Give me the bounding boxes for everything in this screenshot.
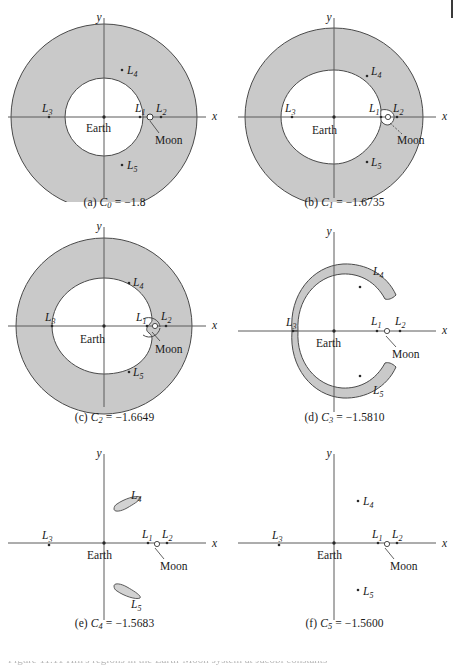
lagrange-point-l2-dot xyxy=(399,330,402,333)
hill-region-shade xyxy=(0,6,229,202)
panel-b-caption-prefix: (b) xyxy=(304,196,318,208)
earth-marker xyxy=(332,115,335,118)
lagrange-point-l3-dot xyxy=(278,544,281,547)
hill-region-l5-sliver xyxy=(114,584,140,599)
moon-marker xyxy=(152,323,157,328)
figure-sheet: y x Earth Moon L1 L2 L3 L4 L5 (a) C0 = −… xyxy=(0,0,459,671)
panel-e-caption-symbol: C xyxy=(91,617,99,629)
earth-marker xyxy=(102,324,105,327)
panel-c-plot: y x Earth Moon L1 L2 L3 L4 L5 xyxy=(0,221,229,417)
panel-f: y x Earth Moon L1 L2 L3 L4 L5 (f) C5 = −… xyxy=(230,440,459,640)
y-axis-label: y xyxy=(325,447,332,460)
moon-label: Moon xyxy=(390,560,418,572)
panel-c-svg: y x Earth Moon L1 L2 L3 L4 L5 xyxy=(0,221,229,417)
panel-f-caption-symbol: C xyxy=(320,617,328,629)
lagrange-point-l5-dot xyxy=(128,371,131,374)
lagrange-point-l2-dot xyxy=(396,116,399,119)
earth-marker xyxy=(332,329,335,332)
lagrange-label-l5: L5 xyxy=(130,598,141,613)
panel-a-caption-value: −1.8 xyxy=(124,196,145,208)
panel-a-caption-subscript: 0 xyxy=(107,201,111,210)
panel-e-caption-equals: = xyxy=(106,617,113,629)
panel-c-caption-prefix: (c) xyxy=(75,411,88,423)
panel-f-caption-prefix: (f) xyxy=(305,617,317,629)
panel-b-caption-subscript: 1 xyxy=(329,201,333,210)
y-axis-label: y xyxy=(325,225,332,238)
x-axis-label: x xyxy=(211,537,218,549)
panel-b: y x Earth Moon L1 L2 L3 L4 L5 (b) C1 = −… xyxy=(230,6,459,221)
panel-d-plot: y x Earth Moon L1 L2 L3 L4 L5 xyxy=(230,221,459,417)
panel-a-plot: y x Earth Moon L1 L2 L3 L4 L5 xyxy=(0,6,229,202)
panel-f-caption: (f) C5 = −1.5600 xyxy=(230,617,459,631)
truncated-footer-caption: Figure 11.11 Hill's regions in the Earth… xyxy=(8,661,344,668)
panel-c-caption-symbol: C xyxy=(91,411,99,423)
hill-region-shade xyxy=(0,221,229,417)
moon-label: Moon xyxy=(160,560,188,572)
lagrange-label-l2: L2 xyxy=(161,528,172,543)
panel-d: y x Earth Moon L1 L2 L3 L4 L5 (d) C3 = −… xyxy=(230,221,459,436)
panel-f-svg: y x Earth Moon L1 L2 L3 L4 L5 xyxy=(230,440,459,622)
panel-a-caption-prefix: (a) xyxy=(84,196,97,208)
lagrange-point-l4-dot xyxy=(359,286,362,289)
panel-f-caption-subscript: 5 xyxy=(328,622,332,631)
lagrange-point-l1-dot xyxy=(380,116,383,119)
panel-b-caption-value: −1.6735 xyxy=(346,196,385,208)
x-axis-label: x xyxy=(441,110,448,122)
moon-marker xyxy=(384,541,389,546)
panel-c-caption-value: −1.6649 xyxy=(115,411,154,423)
panel-e-plot: y x Earth Moon L1 L2 L3 L4 L5 xyxy=(0,440,229,622)
panel-f-caption-value: −1.5600 xyxy=(345,617,384,629)
lagrange-point-l2-dot xyxy=(165,325,168,328)
x-axis-label: x xyxy=(441,537,448,549)
y-axis-label: y xyxy=(95,11,102,24)
panel-c-caption: (c) C2 = −1.6649 xyxy=(0,411,229,425)
panel-e-caption: (e) C4 = −1.5683 xyxy=(0,617,229,631)
panel-e-caption-value: −1.5683 xyxy=(115,617,154,629)
earth-label: Earth xyxy=(312,124,337,136)
moon-marker xyxy=(147,114,153,120)
y-axis-label: y xyxy=(95,221,102,233)
panel-d-caption: (d) C3 = −1.5810 xyxy=(230,411,459,425)
lagrange-point-l5-dot xyxy=(366,161,369,164)
panel-d-caption-symbol: C xyxy=(321,411,329,423)
panel-a-caption-equals: = xyxy=(115,196,122,208)
earth-label: Earth xyxy=(87,549,112,561)
panel-d-caption-value: −1.5810 xyxy=(346,411,385,423)
panel-e-caption-prefix: (e) xyxy=(75,617,88,629)
moon-marker xyxy=(384,328,389,333)
panel-e: y x Earth Moon L1 L2 L3 L4 L5 (e) C4 = −… xyxy=(0,440,229,640)
earth-marker xyxy=(102,115,105,118)
lagrange-point-l1-dot xyxy=(376,330,379,333)
panel-d-caption-subscript: 3 xyxy=(329,416,333,425)
earth-label: Earth xyxy=(80,333,105,345)
lagrange-point-l4-dot xyxy=(357,500,360,503)
panel-b-svg: y x Earth Moon L1 L2 L3 L4 L5 xyxy=(230,6,459,202)
lagrange-label-l2: L2 xyxy=(391,528,402,543)
moon-leader-line xyxy=(155,548,164,559)
panel-c-caption-equals: = xyxy=(106,411,113,423)
panel-b-plot: y x Earth Moon L1 L2 L3 L4 L5 xyxy=(230,6,459,202)
moon-leader-line xyxy=(386,336,396,347)
lagrange-label-l1: L1 xyxy=(371,528,382,543)
earth-label: Earth xyxy=(317,549,342,561)
panel-f-caption-equals: = xyxy=(335,617,342,629)
moon-leader-line xyxy=(385,548,394,559)
lagrange-point-l5-dot xyxy=(357,589,360,592)
panel-d-caption-prefix: (d) xyxy=(304,411,318,423)
moon-label: Moon xyxy=(155,343,183,355)
lagrange-point-l3-dot xyxy=(48,544,51,547)
lagrange-point-l5-dot xyxy=(359,375,362,378)
panel-a-svg: y x Earth Moon L1 L2 L3 L4 L5 xyxy=(0,6,229,202)
lagrange-label-l4: L4 xyxy=(362,495,373,510)
lagrange-label-l5: L5 xyxy=(362,585,373,600)
x-axis-label: x xyxy=(211,319,218,331)
lagrange-label-l3: L3 xyxy=(41,529,52,544)
truncated-footer-caption-text: Figure 11.11 Hill's regions in the Earth… xyxy=(8,661,327,665)
panel-a: y x Earth Moon L1 L2 L3 L4 L5 (a) C0 = −… xyxy=(0,6,229,221)
lagrange-label-l1: L1 xyxy=(370,315,381,330)
lagrange-label-l2: L2 xyxy=(394,315,405,330)
panel-b-caption-symbol: C xyxy=(321,196,329,208)
panel-e-caption-subscript: 4 xyxy=(99,622,103,631)
panel-b-caption: (b) C1 = −1.6735 xyxy=(230,196,459,210)
panel-c-caption-subscript: 2 xyxy=(99,416,103,425)
